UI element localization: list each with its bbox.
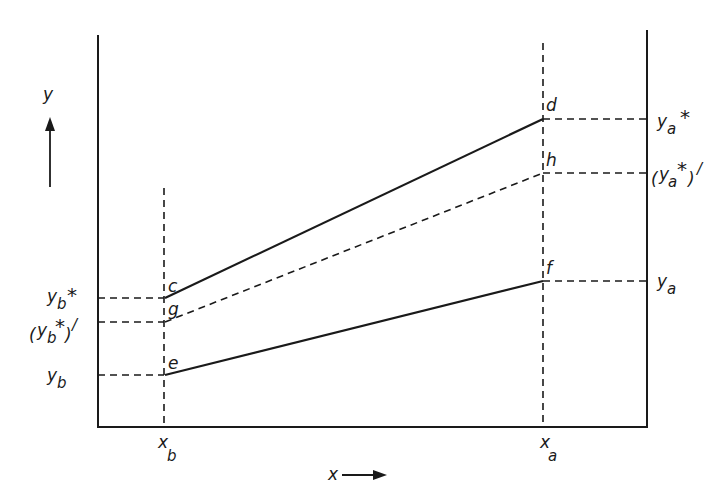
- svg-text:(: (: [651, 169, 659, 189]
- svg-text:/: /: [70, 316, 79, 334]
- line-e-f: [165, 281, 543, 375]
- svg-text:b: b: [57, 295, 67, 313]
- svg-text:a: a: [668, 173, 677, 191]
- svg-text:b: b: [57, 374, 67, 392]
- ya-label: y a: [656, 271, 676, 298]
- ya-star-prime-label: ( y a * ) /: [651, 157, 704, 191]
- point-e-label: e: [168, 353, 178, 373]
- point-f-label: f: [546, 258, 555, 278]
- svg-text:b: b: [167, 447, 177, 465]
- svg-text:): ): [686, 169, 695, 189]
- y-axis-label: y: [42, 84, 54, 104]
- svg-text:*: *: [55, 314, 65, 338]
- yb-star-label: y b *: [46, 283, 77, 313]
- svg-text:a: a: [667, 120, 676, 138]
- diagram-canvas: c g e d h f y x x b x a y b * ( y b * ) …: [0, 0, 718, 502]
- svg-text:a: a: [548, 447, 557, 465]
- line-g-h: [165, 173, 543, 322]
- svg-text:a: a: [667, 280, 676, 298]
- point-h-label: h: [546, 150, 557, 170]
- point-g-label: g: [168, 299, 179, 319]
- ya-star-label: y a *: [656, 105, 690, 138]
- svg-text:*: *: [677, 157, 687, 181]
- svg-text:(: (: [29, 325, 37, 345]
- svg-text:*: *: [680, 105, 690, 129]
- xa-label: x a: [539, 432, 557, 465]
- svg-text:): ): [63, 325, 72, 345]
- xb-label: x b: [157, 432, 177, 465]
- svg-text:/: /: [695, 160, 704, 178]
- x-arrow-head-icon: [373, 470, 387, 480]
- yb-label: y b: [46, 365, 67, 392]
- point-d-label: d: [546, 95, 557, 115]
- y-arrow-head-icon: [45, 117, 55, 131]
- yb-star-prime-label: ( y b * ) /: [29, 314, 79, 347]
- svg-text:*: *: [67, 283, 77, 307]
- x-axis-label: x: [327, 464, 339, 484]
- point-c-label: c: [168, 276, 178, 296]
- line-c-d: [165, 119, 543, 298]
